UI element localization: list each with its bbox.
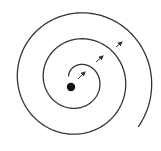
radial-arrows [78,42,122,79]
spiral-curve [17,13,151,134]
arrow-icon [96,56,103,62]
center-dot [67,83,75,91]
arrow-icon [116,42,122,47]
arrow-icon [78,72,85,79]
spiral-diagram [0,0,161,151]
